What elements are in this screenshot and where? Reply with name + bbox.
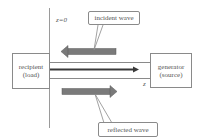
z-axis-label: z bbox=[143, 80, 146, 88]
reflected-callout-tail bbox=[95, 94, 112, 123]
load-label: (load) bbox=[23, 71, 40, 79]
recipient-label: recipient bbox=[19, 63, 44, 71]
incident-wave-callout: incident wave bbox=[88, 11, 140, 25]
incident-callout-tail bbox=[94, 25, 103, 50]
recipient-load-box: recipient (load) bbox=[12, 53, 50, 89]
reflected-wave-arrow bbox=[62, 86, 117, 98]
reflected-wave-label: reflected wave bbox=[108, 126, 149, 134]
generator-label: generator bbox=[158, 63, 184, 71]
generator-source-box: generator (source) bbox=[150, 53, 192, 88]
z0-label: z=0 bbox=[56, 16, 67, 24]
reflected-wave-callout: reflected wave bbox=[98, 122, 158, 137]
incident-wave-arrow bbox=[61, 46, 116, 58]
incident-wave-label: incident wave bbox=[94, 14, 133, 22]
source-label: (source) bbox=[160, 71, 183, 79]
z-direction-arrow bbox=[50, 67, 139, 73]
